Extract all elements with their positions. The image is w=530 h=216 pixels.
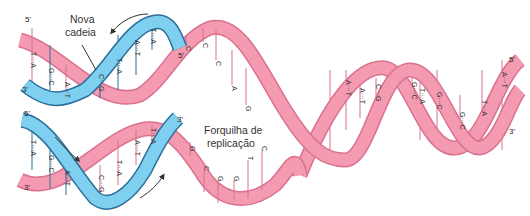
label-forquilha: Forquilha de — [204, 124, 263, 136]
label-cadeia: cadeia — [65, 26, 96, 38]
svg-text:C: C — [185, 46, 192, 51]
svg-text:G···C: G···C — [411, 82, 418, 100]
end-top-blue-5: 5' — [178, 51, 184, 60]
end-top-left-3: 3' — [22, 85, 28, 94]
svg-text:T···A: T···A — [30, 52, 37, 68]
end-right-3: 3' — [509, 127, 515, 136]
label-nova: Nova — [70, 13, 95, 25]
svg-text:T: T — [247, 156, 254, 161]
end-top-left-5: 5' — [25, 15, 31, 24]
svg-text:A: A — [231, 86, 238, 91]
svg-text:G···C: G···C — [48, 155, 55, 173]
label-replicacao: replicação — [207, 137, 255, 149]
svg-text:G···C: G···C — [436, 92, 443, 110]
end-bottom-left-5: 5' — [24, 109, 30, 118]
svg-text:G: G — [217, 176, 224, 181]
svg-text:A···T: A···T — [134, 40, 141, 57]
svg-text:A···T: A···T — [345, 80, 352, 97]
svg-text:T···A: T···A — [150, 128, 157, 144]
end-right-5: 5' — [509, 55, 515, 64]
svg-text:T···A: T···A — [116, 58, 123, 74]
svg-text:C: C — [215, 61, 222, 66]
svg-text:G···C: G···C — [48, 68, 55, 86]
svg-text:C: C — [261, 146, 268, 151]
base-letters: T···A G···C A···T C···G T···A A···T T···… — [30, 28, 508, 193]
svg-text:C: C — [203, 166, 210, 171]
svg-text:T···A: T···A — [116, 160, 123, 176]
end-bottom-left-3: 3' — [24, 183, 30, 192]
svg-text:G: G — [245, 106, 252, 111]
svg-text:C: C — [202, 43, 209, 48]
svg-text:T···A: T···A — [150, 28, 157, 44]
svg-text:T···A: T···A — [481, 100, 488, 116]
svg-text:T···A: T···A — [419, 88, 426, 104]
dna-replication-diagram: Nova cadeia Forquilha de replicação 5' 3… — [0, 0, 530, 216]
svg-text:T···A: T···A — [30, 140, 37, 156]
svg-text:A···T: A···T — [64, 82, 71, 99]
parental-helix — [285, 60, 520, 175]
svg-text:A···T: A···T — [134, 140, 141, 157]
svg-text:G: G — [233, 176, 240, 181]
svg-text:A···T: A···T — [501, 72, 508, 89]
svg-text:A···T: A···T — [359, 88, 366, 105]
svg-text:C···G: C···G — [98, 175, 105, 193]
svg-text:A···T: A···T — [64, 170, 71, 187]
svg-text:G: G — [189, 146, 196, 151]
svg-text:C···G: C···G — [98, 74, 105, 92]
svg-text:C···G: C···G — [375, 84, 382, 102]
svg-text:G···C: G···C — [459, 112, 466, 130]
nova-cadeia-pointer — [82, 45, 96, 70]
end-bottom-blue-3: 3' — [177, 115, 183, 124]
